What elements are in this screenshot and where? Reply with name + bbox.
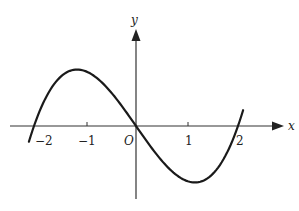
x-axis-arrow-icon — [272, 122, 284, 131]
x-axis: x — [10, 119, 295, 133]
tick-label-neg2: −2 — [35, 134, 53, 148]
y-axis-label: y — [130, 13, 138, 27]
tick-label-2: 2 — [236, 134, 244, 148]
function-graph: x y −2 −1 O 1 2 — [0, 0, 299, 211]
y-axis-arrow-icon — [132, 29, 141, 41]
x-axis-label: x — [288, 119, 295, 133]
tick-label-neg1: −1 — [78, 134, 96, 148]
tick-label-1: 1 — [185, 134, 193, 148]
origin-label: O — [124, 134, 134, 148]
y-axis: y — [130, 13, 141, 199]
